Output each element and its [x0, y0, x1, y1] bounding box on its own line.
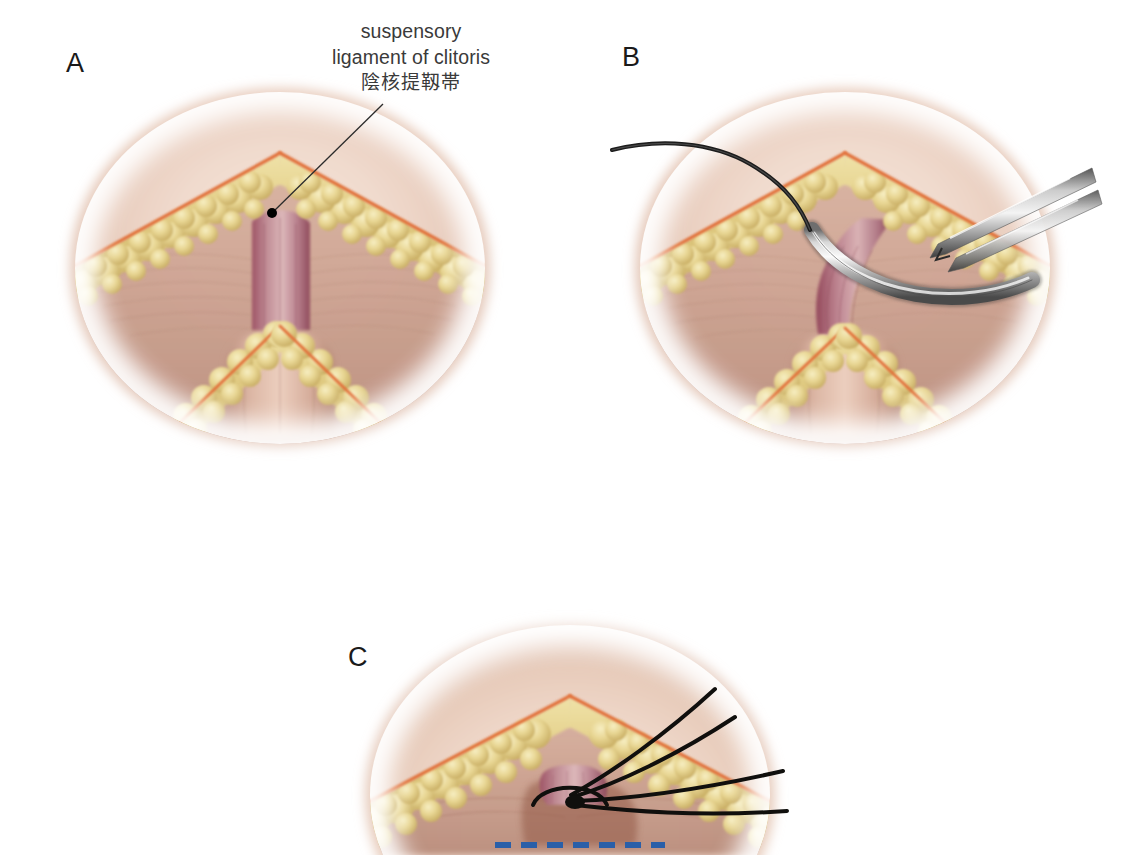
callout-line-2: ligament of clitoris	[282, 44, 540, 70]
panel-label-c: C	[348, 644, 368, 671]
callout-line-3-japanese: 陰核提靱帯	[282, 70, 540, 96]
panel-b-illustration	[600, 78, 1090, 448]
panel-label-b: B	[622, 44, 641, 71]
suture-knot	[565, 795, 585, 809]
callout-label: suspensory ligament of clitoris 陰核提靱帯	[282, 18, 540, 96]
suspensory-ligament	[252, 210, 310, 330]
panel-c-illustration	[335, 655, 805, 855]
panel-label-a: A	[66, 50, 85, 77]
callout-line-1: suspensory	[282, 18, 540, 44]
panel-a-illustration	[40, 78, 520, 448]
